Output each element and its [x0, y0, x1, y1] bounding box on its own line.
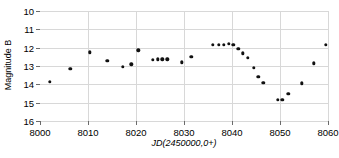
data-point — [257, 75, 260, 78]
data-point — [121, 65, 124, 68]
y-axis-tick-label: 11 — [24, 24, 34, 35]
data-point — [281, 98, 284, 101]
x-axis-tick-label: 8060 — [317, 127, 338, 138]
x-axis-tick-label: 8030 — [173, 127, 194, 138]
y-axis-tick-label: 12 — [23, 42, 34, 53]
data-point — [222, 43, 225, 46]
y-axis-tick-label: 14 — [23, 79, 34, 90]
y-axis-tick — [36, 29, 40, 30]
x-axis-tick-label: 8000 — [29, 127, 50, 138]
data-point — [252, 66, 255, 69]
x-axis-tick-label: 8040 — [221, 127, 242, 138]
y-axis-title-text: Magnitude B — [3, 40, 13, 91]
data-point — [276, 98, 279, 101]
x-axis-tick-label: 8050 — [269, 127, 290, 138]
data-point — [324, 43, 327, 46]
data-point — [161, 58, 164, 61]
gridline-vertical — [280, 11, 281, 121]
data-point — [286, 92, 289, 95]
data-point — [312, 62, 315, 65]
x-axis-tick — [184, 121, 185, 125]
y-axis-tick — [36, 11, 40, 12]
data-point — [241, 51, 244, 54]
y-axis-tick — [36, 84, 40, 85]
x-axis-tick-label: 8010 — [77, 127, 98, 138]
data-point — [137, 49, 140, 52]
data-point — [227, 42, 230, 45]
y-axis-tick-label: 13 — [23, 61, 34, 72]
data-point — [232, 43, 235, 46]
x-axis-tick — [280, 121, 281, 125]
data-point — [189, 55, 192, 58]
x-axis-tick — [328, 121, 329, 125]
gridline-vertical — [328, 11, 329, 121]
x-axis-title: JD(2450000,0+) — [40, 138, 328, 148]
y-axis-tick-label: 10 — [23, 6, 34, 17]
data-point — [165, 58, 168, 61]
gridline-vertical — [136, 11, 137, 121]
x-axis-tick-label: 8020 — [125, 127, 146, 138]
data-point — [156, 58, 159, 61]
y-axis-title: Magnitude B — [0, 0, 16, 130]
gridline-vertical — [88, 11, 89, 121]
x-axis-tick — [40, 121, 41, 125]
data-point — [211, 43, 214, 46]
y-axis-tick — [36, 66, 40, 67]
data-point — [88, 51, 91, 54]
data-point — [246, 56, 249, 59]
y-axis-tick-label: 15 — [23, 97, 34, 108]
plot-area: 1011121314151680008010802080308040805080… — [40, 11, 328, 121]
gridline-vertical — [184, 11, 185, 121]
x-axis-tick — [136, 121, 137, 125]
data-point — [217, 43, 220, 46]
y-axis-tick — [36, 103, 40, 104]
data-point — [151, 58, 154, 61]
data-point — [69, 67, 72, 70]
data-point — [180, 61, 183, 64]
x-axis-tick — [88, 121, 89, 125]
data-point — [105, 59, 108, 62]
data-point — [48, 80, 51, 83]
x-axis-tick — [232, 121, 233, 125]
data-point — [237, 47, 240, 50]
y-axis-tick-label: 16 — [23, 116, 34, 127]
gridline-vertical — [232, 11, 233, 121]
y-axis-tick — [36, 48, 40, 49]
